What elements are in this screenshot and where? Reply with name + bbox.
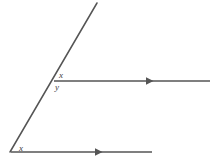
upper-ray-arrow-icon: [146, 77, 154, 85]
angle-label-x-lower: x: [19, 144, 23, 153]
geometry-figure: x y x: [0, 0, 222, 158]
lower-ray-arrow-icon: [95, 148, 103, 156]
diagonal-ray: [10, 3, 97, 152]
angle-label-y-upper: y: [55, 83, 59, 92]
angle-label-x-upper: x: [59, 71, 63, 80]
figure-canvas: [0, 0, 222, 158]
